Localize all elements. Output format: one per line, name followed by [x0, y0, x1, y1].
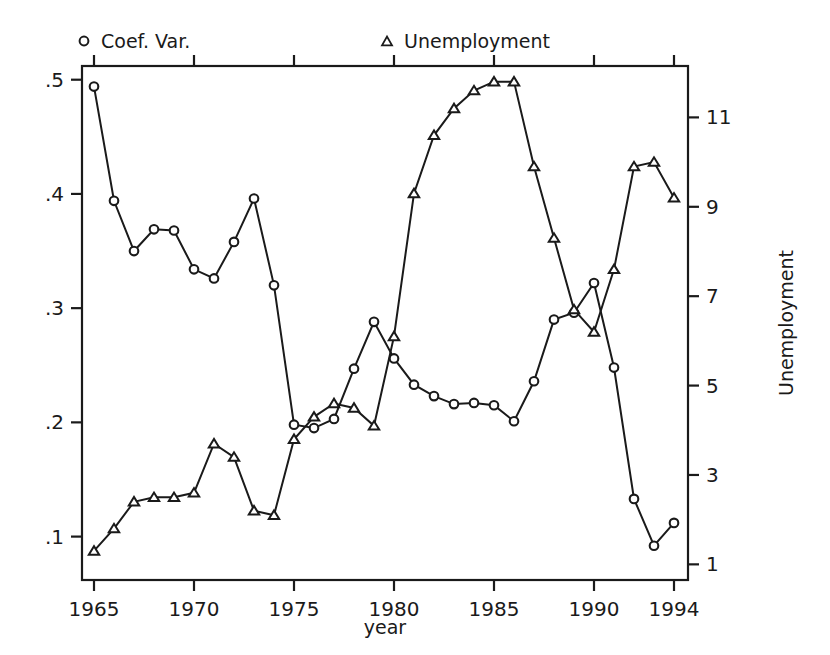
coef-var-point-marker	[450, 400, 459, 409]
coef-var-point-marker	[250, 194, 259, 203]
y-left-tick-label: .1	[45, 525, 64, 549]
x-tick-label: 1965	[69, 597, 120, 621]
y-left-tick-label: .5	[45, 68, 64, 92]
coef-var-point-marker	[110, 196, 119, 205]
coef-var-point-marker	[330, 415, 339, 424]
coef-var-point-marker	[610, 363, 619, 372]
legend-label-coef-var: Coef. Var.	[101, 30, 190, 52]
y-left-tick-label: .2	[45, 410, 64, 434]
coef-var-point-marker	[410, 380, 419, 389]
chart-canvas: .5.4.3.2.1 1197531 196519701975198019851…	[0, 0, 830, 655]
coef-var-point-marker	[650, 541, 659, 550]
coef-var-point-marker	[530, 377, 539, 386]
y-right-tick-label: 9	[706, 195, 719, 219]
x-tick-label: 1990	[569, 597, 620, 621]
coef-var-point-marker	[670, 519, 679, 528]
chart-figure: .5.4.3.2.1 1197531 196519701975198019851…	[0, 0, 830, 655]
coef-var-point-marker	[630, 495, 639, 504]
coef-var-point-marker	[310, 424, 319, 433]
x-tick-label: 1970	[169, 597, 220, 621]
x-tick-label: 1985	[469, 597, 520, 621]
coef-var-point-marker	[130, 247, 139, 256]
coef-var-point-marker	[390, 354, 399, 363]
y-left-tick-label: .4	[45, 182, 64, 206]
coef-var-point-marker	[510, 417, 519, 426]
coef-var-point-marker	[590, 279, 599, 288]
x-tick-label: 1975	[269, 597, 320, 621]
coef-var-point-marker	[210, 274, 219, 283]
x-tick-label: 1994	[649, 597, 700, 621]
coef-var-point-marker	[470, 399, 479, 408]
coef-var-point-marker	[170, 226, 179, 235]
coef-var-point-marker	[190, 265, 199, 274]
y-right-tick-label: 1	[706, 552, 719, 576]
y-right-tick-label: 7	[706, 284, 719, 308]
coef-var-point-marker	[430, 392, 439, 401]
coef-var-point-marker	[350, 364, 359, 373]
coef-var-point-marker	[490, 401, 499, 410]
coef-var-point-marker	[230, 238, 239, 247]
x-axis-label: year	[364, 616, 407, 638]
legend-label-unemployment: Unemployment	[404, 30, 550, 52]
coef-var-point-marker	[370, 318, 379, 327]
y-left-tick-label: .3	[45, 296, 64, 320]
coef-var-point-marker	[150, 225, 159, 234]
coef-var-point-marker	[290, 420, 299, 429]
coef-var-point-marker	[270, 281, 279, 290]
y-right-tick-label: 5	[706, 374, 719, 398]
y-right-axis-label: Unemployment	[775, 250, 797, 396]
y-right-tick-label: 3	[706, 463, 719, 487]
coef-var-point-marker	[550, 315, 559, 324]
coef-var-point-marker	[90, 82, 99, 91]
y-right-tick-label: 11	[706, 105, 731, 129]
